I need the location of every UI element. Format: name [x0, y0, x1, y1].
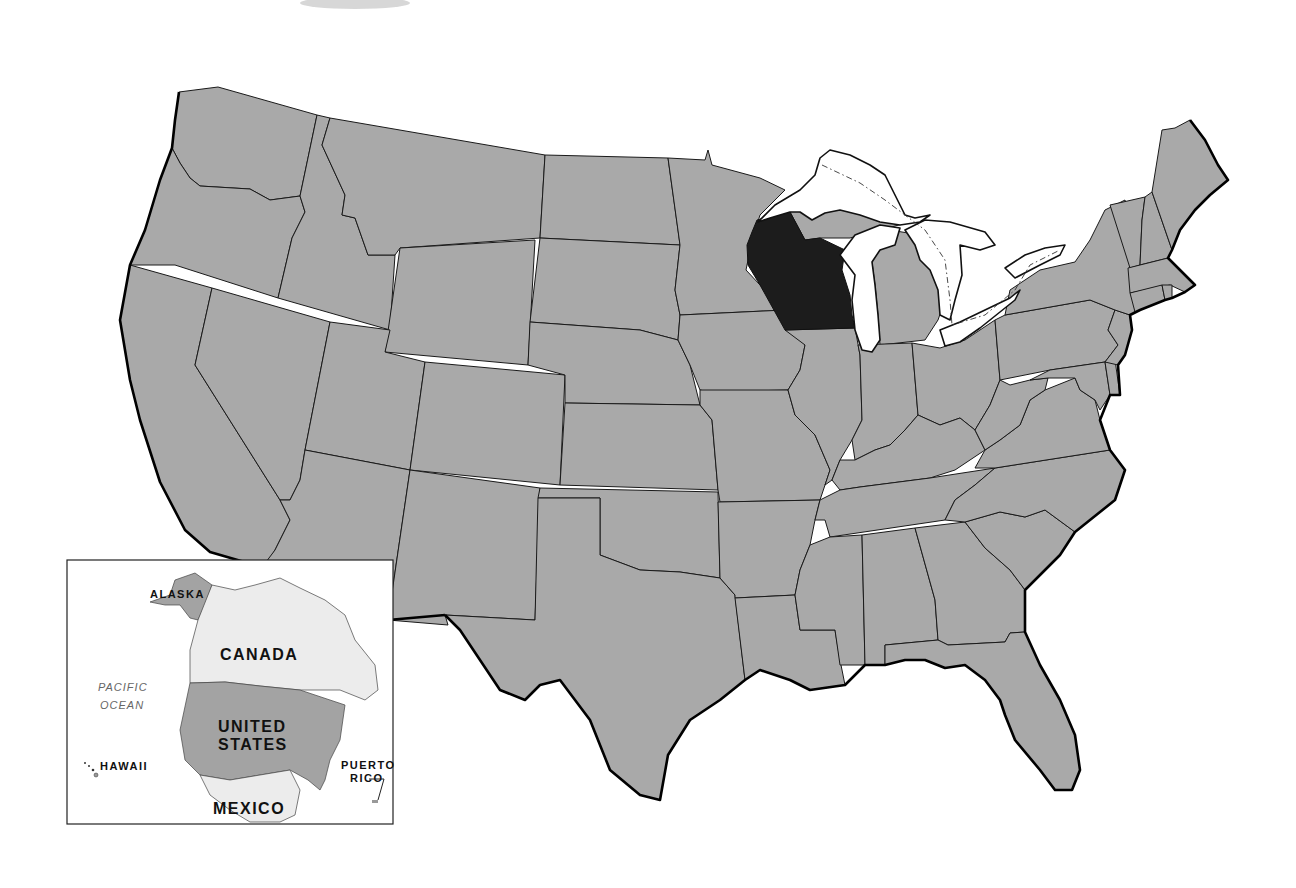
- label-puerto: PUERTO: [341, 759, 396, 771]
- label-mexico: MEXICO: [213, 800, 285, 817]
- us-map: ALASKA CANADA PACIFIC OCEAN UNITED STATE…: [0, 0, 1296, 888]
- state-wyoming[interactable]: [385, 240, 535, 365]
- label-alaska: ALASKA: [150, 588, 205, 600]
- inset-north-america: ALASKA CANADA PACIFIC OCEAN UNITED STATE…: [67, 560, 396, 824]
- scan-smudge: [300, 0, 410, 9]
- label-pacific-ocean-1: PACIFIC: [98, 681, 148, 693]
- label-united: UNITED: [218, 718, 287, 735]
- label-hawaii: HAWAII: [100, 760, 148, 772]
- state-florida[interactable]: [885, 632, 1080, 790]
- label-pacific-ocean-2: OCEAN: [100, 699, 144, 711]
- state-new-mexico[interactable]: [388, 470, 540, 625]
- label-rico: RICO: [350, 772, 384, 784]
- label-canada: CANADA: [220, 646, 298, 663]
- state-kansas[interactable]: [560, 403, 718, 490]
- label-states: STATES: [218, 736, 288, 753]
- state-north-dakota[interactable]: [540, 155, 680, 245]
- state-colorado[interactable]: [410, 362, 565, 485]
